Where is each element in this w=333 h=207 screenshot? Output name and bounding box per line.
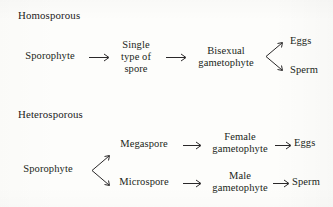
section-title-homosporous: Homosporous	[18, 9, 80, 21]
node-female-gametophyte: Female gametophyte	[204, 131, 276, 155]
branch-split-icon	[263, 42, 289, 71]
node-eggs-homosporous: Eggs	[290, 35, 330, 47]
arrow-right-icon	[88, 52, 112, 63]
node-sperm-heterosporous: Sperm	[292, 176, 333, 188]
arrow-right-icon	[272, 178, 292, 189]
arrow-right-icon	[274, 140, 294, 151]
arrow-right-icon	[182, 140, 204, 151]
node-megaspore: Megaspore	[108, 138, 180, 150]
node-bisexual-gametophyte: Bisexual gametophyte	[190, 45, 262, 69]
arrow-right-icon	[165, 52, 189, 63]
life-cycle-diagram: Homosporous Sporophyte Single type of sp…	[0, 0, 333, 207]
node-sperm-homosporous: Sperm	[290, 64, 333, 76]
node-sporophyte-heterosporous: Sporophyte	[12, 163, 84, 175]
node-male-gametophyte: Male gametophyte	[204, 170, 276, 194]
section-title-heterosporous: Heterosporous	[18, 108, 83, 120]
node-sporophyte-homosporous: Sporophyte	[14, 50, 86, 62]
node-single-type-of-spore: Single type of spore	[110, 39, 162, 74]
arrow-right-icon	[182, 178, 204, 189]
node-microspore: Microspore	[106, 176, 182, 188]
node-eggs-heterosporous: Eggs	[294, 137, 332, 149]
